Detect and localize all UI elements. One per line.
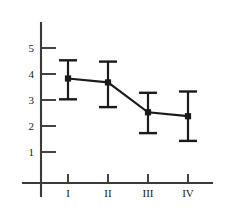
- data-point-marker-1: [65, 75, 71, 81]
- y-tick-label-4: 4: [29, 68, 35, 80]
- y-axis-tick-labels: 5 4 3 2 1: [29, 42, 35, 158]
- chart-container: 5 4 3 2 1 I II III IV: [0, 0, 232, 210]
- data-point-marker-4: [185, 113, 191, 119]
- data-point-marker-2: [105, 79, 111, 85]
- y-tick-label-1: 1: [29, 146, 35, 158]
- x-axis-ticks: [68, 174, 188, 183]
- x-tick-label-1: I: [66, 187, 70, 199]
- x-tick-label-4: IV: [182, 187, 194, 199]
- y-tick-label-3: 3: [29, 94, 35, 106]
- data-point-marker-3: [145, 109, 151, 115]
- line-chart-with-error-bars: 5 4 3 2 1 I II III IV: [0, 0, 232, 210]
- x-tick-label-2: II: [104, 187, 112, 199]
- x-axis-tick-labels: I II III IV: [66, 187, 194, 199]
- y-tick-label-5: 5: [29, 42, 35, 54]
- data-series-line: [68, 79, 188, 117]
- y-axis-ticks: [41, 48, 56, 152]
- y-tick-label-2: 2: [29, 120, 35, 132]
- x-tick-label-3: III: [143, 187, 154, 199]
